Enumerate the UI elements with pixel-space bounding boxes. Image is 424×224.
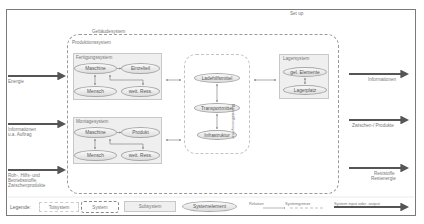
output-label-products: Zwischen-/ Produkte bbox=[352, 123, 394, 128]
legend-system-boundary: Systemgrenze bbox=[285, 201, 311, 206]
legend-relation: Relation bbox=[249, 201, 264, 206]
input-label-energy: Energie bbox=[8, 79, 24, 84]
input-label-materials-3: Zwischenprodukte bbox=[8, 183, 45, 188]
connector-layer bbox=[0, 0, 424, 224]
legend-total-system: Totsystem bbox=[39, 202, 79, 212]
legend-system-element: Systemelement bbox=[182, 201, 237, 212]
legend-title: Legende: bbox=[10, 205, 31, 210]
input-label-information-2: u.a. Auftrag bbox=[8, 132, 32, 137]
legend-io: System input oder -output bbox=[334, 201, 380, 206]
legend-subsystem: Subsystem bbox=[124, 201, 176, 212]
legend-system: System bbox=[81, 201, 119, 213]
output-label-residual-energy: Restenergie bbox=[371, 176, 396, 181]
output-label-information: Informationen bbox=[368, 77, 396, 82]
